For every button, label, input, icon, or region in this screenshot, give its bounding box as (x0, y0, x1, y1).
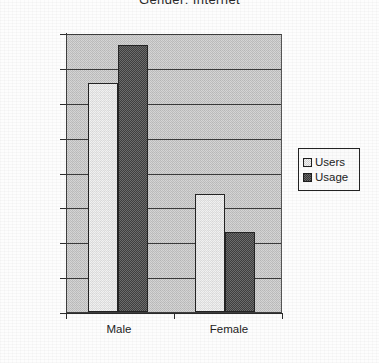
chart-legend: Users Usage (298, 148, 360, 191)
bar-male-usage[interactable] (118, 45, 148, 312)
legend-label-users: Users (315, 156, 345, 168)
legend-swatch-usage-icon (303, 173, 312, 182)
plot-area (66, 34, 282, 313)
x-tick-mark-middle (174, 313, 175, 319)
legend-item-usage[interactable]: Usage (303, 171, 356, 183)
bar-male-users[interactable] (88, 83, 118, 312)
legend-item-users[interactable]: Users (303, 156, 356, 168)
legend-label-usage: Usage (315, 171, 348, 183)
x-tick-mark-left (66, 313, 67, 319)
x-category-label-female: Female (210, 323, 248, 335)
x-category-label-male: Male (107, 323, 132, 335)
chart-title: Gender: Internet (0, 0, 379, 7)
x-tick-mark-right (282, 313, 283, 319)
legend-swatch-users-icon (303, 158, 312, 167)
bar-chart: Gender: Internet 80% 70% 60% 50% 40% 30%… (0, 0, 379, 363)
gridline-70 (67, 69, 281, 70)
bar-female-usage[interactable] (225, 232, 255, 312)
bar-female-users[interactable] (195, 194, 225, 312)
